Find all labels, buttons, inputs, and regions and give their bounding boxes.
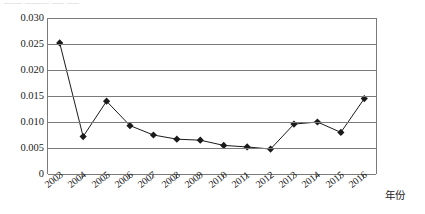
y-axis-tick-label: 0.015 xyxy=(0,91,44,102)
y-axis-tick-labels: 00.0050.0100.0150.0200.0250.030 xyxy=(0,0,44,214)
data-point-marker xyxy=(80,133,87,140)
gridline xyxy=(48,122,376,123)
y-axis-tick-label: 0.005 xyxy=(0,143,44,154)
chart-plot-wrapper: 00.0050.0100.0150.0200.0250.030 20032004… xyxy=(0,0,425,214)
data-point-marker xyxy=(173,136,180,143)
gridline xyxy=(48,96,376,97)
line-chart-figure: ─── ──── ── ── 00.0050.0100.0150.0200.02… xyxy=(0,0,425,214)
y-axis-tick-label: 0.020 xyxy=(0,65,44,76)
data-point-marker xyxy=(337,129,344,136)
data-point-marker xyxy=(150,131,157,138)
y-axis-tick-label: 0.025 xyxy=(0,39,44,50)
gridline xyxy=(48,18,376,19)
gridline xyxy=(48,44,376,45)
gridline xyxy=(48,70,376,71)
x-axis-tick-label: 2003 xyxy=(43,170,65,190)
y-axis-tick-label: 0 xyxy=(0,169,44,180)
data-point-marker xyxy=(244,143,251,150)
y-axis-tick-label: 0.030 xyxy=(0,13,44,24)
y-axis-tick-label: 0.010 xyxy=(0,117,44,128)
gridline xyxy=(48,148,376,149)
data-point-marker xyxy=(56,39,63,46)
x-axis-title: 年份 xyxy=(385,190,405,201)
plot-area xyxy=(47,18,377,174)
data-point-marker xyxy=(197,137,204,144)
